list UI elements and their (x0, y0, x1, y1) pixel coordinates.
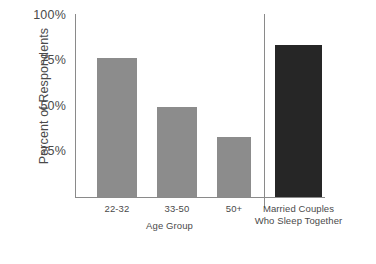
plot-area: 22-32 33-50 50+ Married Couples Who Slee… (75, 14, 325, 198)
bar-chart: Percent of Respondents 100% 75% 50% 25% … (0, 0, 376, 264)
x-tick-label-married-couples-line1: Married Couples (244, 203, 354, 215)
y-axis-title: Percent of Respondents (34, 0, 54, 196)
group-separator (264, 14, 265, 208)
bar-50-plus (217, 137, 251, 197)
y-tick-label-50: 50% (20, 99, 66, 113)
y-tick-label-25: 25% (20, 144, 66, 158)
x-axis-line (75, 197, 325, 198)
y-tick-label-100: 100% (20, 8, 66, 22)
bar-22-32 (97, 58, 137, 197)
x-axis-title: Age Group (75, 220, 264, 231)
bar-married-couples (275, 45, 322, 197)
y-axis-line (75, 14, 76, 198)
y-tick-label-75: 75% (20, 53, 66, 67)
bar-33-50 (157, 107, 197, 197)
